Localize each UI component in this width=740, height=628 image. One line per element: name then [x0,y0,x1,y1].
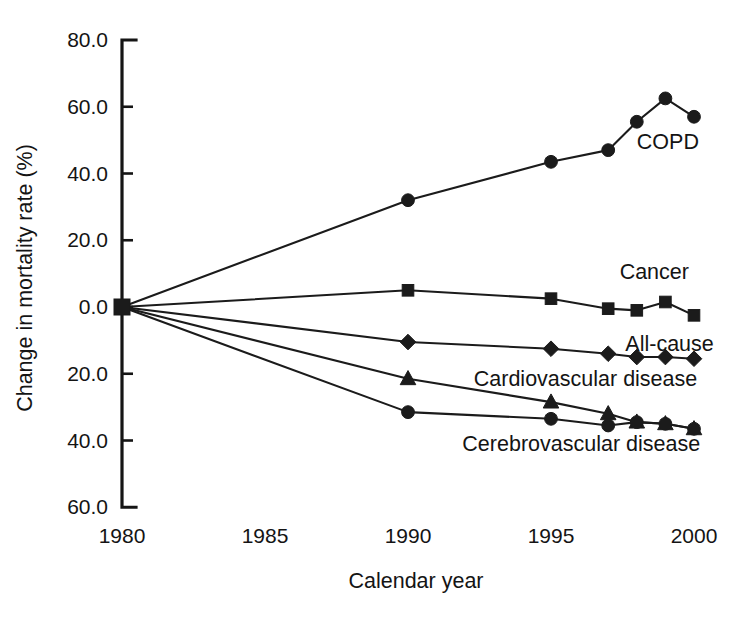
y-tick-label-20.0-3: 20.0 [67,228,108,251]
chart-figure: 80.060.040.020.00.020.040.060.0 19801985… [0,0,740,628]
x-axis-title: Calendar year [348,569,483,593]
x-tick-label-1990: 1990 [385,524,432,547]
data-point-square-1999 [660,296,672,308]
data-point-circle-1995 [545,155,558,168]
data-point-diamond-1997 [600,346,616,362]
series-all-cause [122,307,702,367]
x-tick-label-1980: 1980 [99,524,146,547]
data-point-circle-1997 [602,419,615,432]
data-point-circle-1995 [545,412,558,425]
y-tick-label-40.0-2: 40.0 [67,162,108,185]
y-axis-ticks [122,107,133,441]
series-label-copd: COPD [637,130,699,154]
data-point-circle-1999 [659,92,672,105]
data-point-square-1990 [402,285,414,297]
data-point-square-1998 [631,305,643,317]
data-point-circle-1990 [402,406,415,419]
y-axis-tick-labels: 80.060.040.020.00.020.040.060.0 [67,28,108,518]
data-point-circle-1999 [659,417,672,430]
series-label-cerebrovascular-disease: Cerebrovascular disease [462,432,700,456]
x-tick-label-2000: 2000 [671,524,718,547]
y-tick-label-60.0-7: 60.0 [67,495,108,518]
x-axis-tick-labels: 19801985199019952000 [99,524,718,547]
data-point-circle-1998 [630,416,643,429]
y-axis-spine [122,40,136,507]
series-label-cancer: Cancer [620,260,689,284]
series-labels: COPDCancerAll-causeCardiovascular diseas… [462,130,713,456]
data-point-square-1995 [545,293,557,305]
data-point-square-1997 [602,303,614,315]
y-tick-label-0.0-4: 0.0 [79,295,108,318]
y-tick-label-80.0-0: 80.0 [67,28,108,51]
y-tick-label-60.0-1: 60.0 [67,95,108,118]
x-tick-label-1995: 1995 [528,524,575,547]
series-copd [122,92,700,307]
origin-square-marker [114,299,130,315]
series-label-cardiovascular-disease: Cardiovascular disease [474,367,697,391]
data-point-circle-2000 [688,110,701,123]
data-point-circle-1990 [402,194,415,207]
x-tick-label-1985: 1985 [242,524,289,547]
y-tick-label-40.0-6: 40.0 [67,429,108,452]
data-point-circle-1998 [630,115,643,128]
y-axis-title: Change in mortality rate (%) [13,144,37,412]
series-label-all-cause: All-cause [625,332,713,356]
series-cancer [122,285,700,322]
y-tick-label-20.0-5: 20.0 [67,362,108,385]
data-point-circle-1997 [602,144,615,157]
data-point-diamond-1990 [400,334,416,350]
data-point-diamond-1995 [543,341,559,357]
data-point-square-2000 [688,310,700,322]
mortality-rate-line-chart: 80.060.040.020.00.020.040.060.0 19801985… [0,0,740,628]
